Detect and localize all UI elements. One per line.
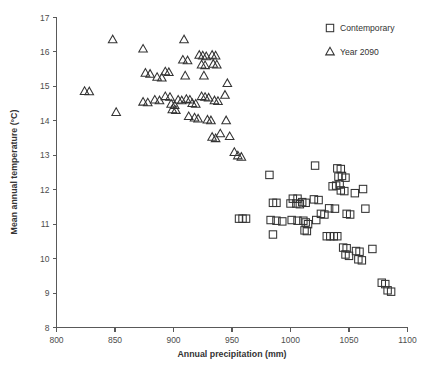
data-point-triangle <box>180 35 189 43</box>
data-point-square <box>311 162 318 169</box>
data-point-triangle <box>208 133 217 141</box>
x-tick-label: 950 <box>225 335 239 345</box>
x-tick-label: 900 <box>166 335 180 345</box>
x-tick-label: 1100 <box>398 335 417 345</box>
y-tick-label: 17 <box>40 13 50 23</box>
data-point-triangle <box>181 71 190 79</box>
x-axis-title: Annual precipitation (mm) <box>178 349 287 359</box>
data-points-layer <box>80 35 395 295</box>
data-point-triangle <box>112 108 121 116</box>
data-point-triangle <box>85 87 94 95</box>
data-point-triangle <box>225 132 234 140</box>
chart-canvas: 891011121314151617 800850900950100010501… <box>0 0 428 378</box>
y-tick-label: 16 <box>40 47 50 57</box>
y-tick-label: 15 <box>40 81 50 91</box>
data-point-square <box>369 245 376 252</box>
data-point-triangle <box>216 129 225 137</box>
y-tick-label: 11 <box>41 219 50 229</box>
chart-legend: ContemporaryYear 2090 <box>326 23 395 57</box>
y-tick-label: 10 <box>40 254 50 264</box>
data-point-square <box>266 171 273 178</box>
legend-item-contemporary: Contemporary <box>326 23 395 33</box>
x-axis: 800850900950100010501100 <box>49 328 417 345</box>
y-tick-label: 14 <box>40 116 50 126</box>
x-tick-label: 800 <box>49 335 63 345</box>
data-point-square <box>359 185 366 192</box>
legend-item-label: Year 2090 <box>340 47 379 57</box>
y-tick-label: 8 <box>45 323 50 333</box>
x-tick-label: 1050 <box>340 335 359 345</box>
legend-square-icon <box>326 24 333 31</box>
legend-triangle-icon <box>326 47 335 55</box>
x-tick-label: 850 <box>108 335 122 345</box>
data-point-square <box>362 205 369 212</box>
data-point-triangle <box>223 79 232 87</box>
y-tick-label: 13 <box>40 150 50 160</box>
data-point-square <box>269 231 276 238</box>
scatter-chart-figure: 891011121314151617 800850900950100010501… <box>0 0 428 378</box>
series-contemporary <box>235 162 395 295</box>
data-point-triangle <box>139 44 148 52</box>
y-tick-label: 12 <box>40 185 50 195</box>
x-tick-label: 1000 <box>281 335 300 345</box>
data-point-triangle <box>222 116 231 124</box>
data-point-triangle <box>108 35 117 43</box>
data-point-square <box>351 189 358 196</box>
series-year-2090 <box>80 35 245 160</box>
y-axis: 891011121314151617 <box>40 13 56 333</box>
data-point-triangle <box>221 91 230 99</box>
y-tick-label: 9 <box>45 288 50 298</box>
legend-item-label: Contemporary <box>340 23 395 33</box>
y-axis-title: Mean annual temperature (°C) <box>9 110 19 235</box>
legend-item-year-2090: Year 2090 <box>326 47 379 57</box>
data-point-square <box>302 219 309 226</box>
data-point-triangle <box>200 71 209 79</box>
